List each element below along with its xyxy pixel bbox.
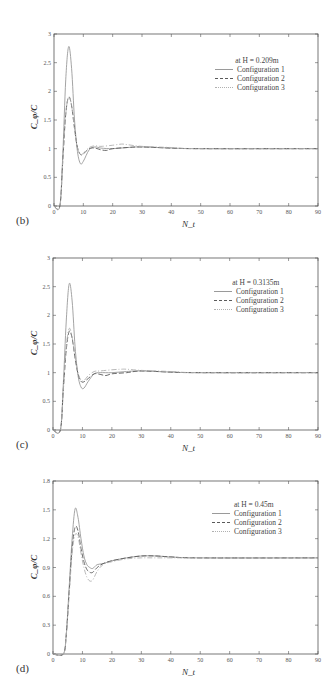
y-tick-label: 1.5 — [43, 507, 51, 513]
legend-title-d: at H = 0.45m — [212, 500, 282, 509]
y-axis-label-d: C_φ/C — [29, 555, 39, 579]
x-tick-label: 90 — [315, 657, 321, 663]
dashdot-line-icon — [212, 531, 230, 532]
legend-item-config2: Configuration 2 — [212, 518, 282, 527]
series-line-config3 — [53, 533, 318, 655]
x-tick-label: 40 — [168, 657, 174, 663]
y-tick-label: 1.2 — [43, 536, 51, 542]
x-tick-label: 60 — [227, 657, 233, 663]
x-tick-label: 50 — [197, 657, 203, 663]
x-tick-label: 0 — [52, 657, 55, 663]
x-tick-label: 70 — [256, 657, 262, 663]
y-tick-label: 0.3 — [43, 622, 51, 628]
x-tick-label: 30 — [138, 657, 144, 663]
x-tick-label: 10 — [79, 657, 85, 663]
y-tick-label: 0.9 — [43, 565, 51, 571]
x-tick-label: 80 — [286, 657, 292, 663]
chart-panel-d: 010203040506070809000.30.60.91.21.51.8 C… — [0, 0, 335, 700]
solid-line-icon — [212, 513, 230, 514]
y-tick-label: 1.8 — [43, 478, 51, 484]
legend-item-config3: Configuration 3 — [212, 527, 282, 536]
y-tick-label: 0 — [47, 651, 50, 657]
y-tick-label: 0.6 — [43, 593, 51, 599]
plot-area-d: 010203040506070809000.30.60.91.21.51.8 — [0, 0, 335, 700]
dashed-line-icon — [212, 522, 230, 523]
x-axis-label-d: N_t — [182, 667, 195, 677]
panel-label-d: (d) — [16, 662, 29, 674]
legend-item-config1: Configuration 1 — [212, 509, 282, 518]
legend-d: at H = 0.45m Configuration 1 Configurati… — [212, 500, 282, 536]
x-tick-label: 20 — [109, 657, 115, 663]
series-line-config2 — [53, 526, 318, 655]
